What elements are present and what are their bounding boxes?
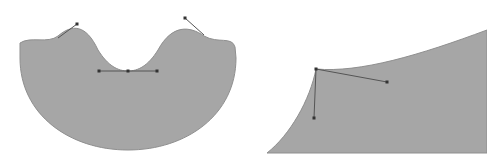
- anchor-point-icon[interactable]: [184, 17, 187, 20]
- right-wedge-path[interactable]: [267, 30, 487, 153]
- anchor-point-icon[interactable]: [315, 68, 318, 71]
- left-bowl-path[interactable]: [20, 28, 236, 150]
- anchor-point-icon[interactable]: [76, 23, 79, 26]
- right-wedge-shape[interactable]: [267, 30, 487, 153]
- anchor-point-icon[interactable]: [156, 70, 159, 73]
- anchor-point-icon[interactable]: [313, 117, 316, 120]
- anchor-point-icon[interactable]: [386, 81, 389, 84]
- anchor-point-icon[interactable]: [127, 70, 130, 73]
- diagram-canvas: [0, 0, 487, 164]
- anchor-point-icon[interactable]: [98, 70, 101, 73]
- left-bowl-shape[interactable]: [20, 17, 236, 151]
